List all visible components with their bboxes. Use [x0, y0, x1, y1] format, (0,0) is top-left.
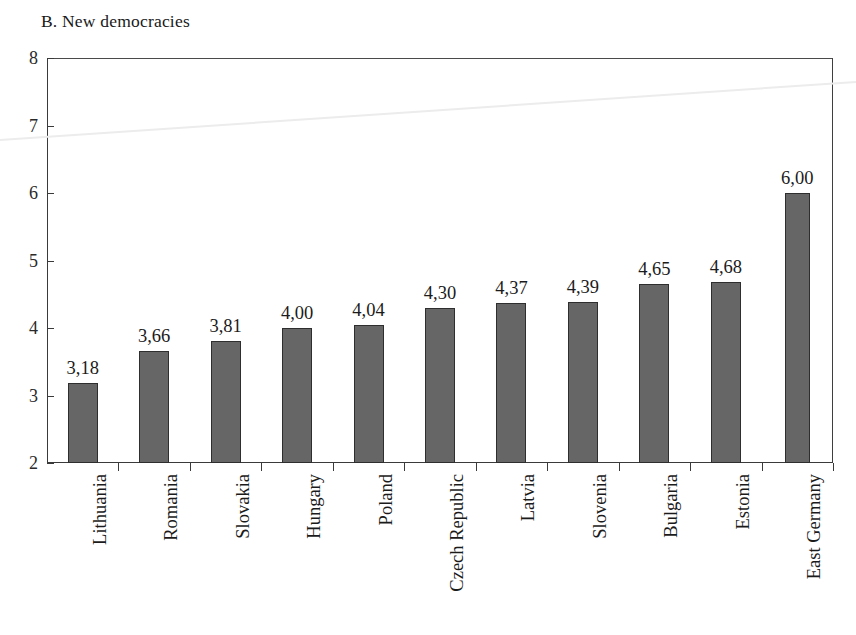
bar[interactable]: [68, 383, 98, 463]
bar-chart: B. New democracies 8765432 LithuaniaRoma…: [0, 0, 856, 635]
y-axis-tick-label: 7: [29, 117, 38, 135]
y-axis-tick-mark: [47, 396, 54, 397]
y-axis-tick-mark: [47, 126, 54, 127]
x-axis-category-label: Estonia: [734, 474, 753, 530]
x-axis-tick-mark: [333, 463, 334, 471]
y-axis-tick-label: 6: [29, 184, 38, 202]
x-axis-category-label: East Germany: [805, 474, 824, 579]
x-axis-tick-mark: [261, 463, 262, 471]
y-axis-tick-label: 4: [29, 319, 38, 337]
y-axis-tick-label: 3: [29, 387, 38, 405]
bar[interactable]: [711, 282, 741, 463]
x-axis-tick-mark: [476, 463, 477, 471]
bar[interactable]: [496, 303, 526, 463]
bar-value-label: 6,00: [781, 169, 813, 188]
bar-value-label: 3,66: [138, 327, 170, 346]
y-axis-tick-label: 8: [29, 49, 38, 67]
x-axis-tick-mark: [118, 463, 119, 471]
y-axis-tick-mark: [47, 261, 54, 262]
x-axis-category-label: Lithuania: [91, 474, 110, 545]
bar-value-label: 4,37: [495, 279, 527, 298]
bar[interactable]: [211, 341, 241, 463]
x-axis-category-label: Romania: [162, 474, 181, 541]
bar[interactable]: [639, 284, 669, 463]
bar-value-label: 4,04: [352, 301, 384, 320]
x-axis-tick-mark: [762, 463, 763, 471]
x-axis-tick-mark: [690, 463, 691, 471]
y-axis-tick-mark: [47, 328, 54, 329]
bar-value-label: 4,00: [281, 304, 313, 323]
x-axis-category-label: Latvia: [519, 474, 538, 521]
x-axis-category-label: Hungary: [305, 474, 324, 539]
y-axis-tick-label: 2: [29, 454, 38, 472]
bar[interactable]: [139, 351, 169, 463]
y-axis-tick-mark: [47, 193, 54, 194]
y-axis-tick-mark: [47, 58, 54, 59]
x-axis-tick-mark: [547, 463, 548, 471]
bar[interactable]: [425, 308, 455, 463]
y-axis-tick-label: 5: [29, 252, 38, 270]
x-axis-category-label: Poland: [377, 474, 396, 525]
x-axis-category-label: Slovakia: [234, 474, 253, 539]
bar-value-label: 3,18: [67, 359, 99, 378]
x-axis-category-label: Czech Republic: [448, 474, 467, 592]
bar-value-label: 3,81: [209, 317, 241, 336]
x-axis-tick-mark: [404, 463, 405, 471]
bar-value-label: 4,68: [710, 258, 742, 277]
bar-value-label: 4,39: [567, 278, 599, 297]
bar[interactable]: [354, 325, 384, 463]
bar[interactable]: [785, 193, 810, 463]
bar[interactable]: [568, 302, 598, 463]
bar-value-label: 4,30: [424, 284, 456, 303]
x-axis-category-label: Slovenia: [591, 474, 610, 539]
x-axis-tick-mark: [190, 463, 191, 471]
bar-value-label: 4,65: [638, 260, 670, 279]
x-axis-tick-mark: [619, 463, 620, 471]
chart-title: B. New democracies: [41, 11, 190, 32]
x-axis-category-label: Bulgaria: [662, 474, 681, 538]
bar[interactable]: [282, 328, 312, 463]
x-axis-tick-mark: [833, 463, 834, 471]
y-axis-tick-mark: [47, 463, 54, 464]
